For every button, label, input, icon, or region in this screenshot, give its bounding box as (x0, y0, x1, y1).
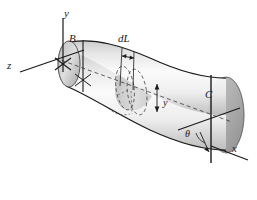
shaft-diagram (0, 0, 257, 200)
angle-theta-label: θ (185, 129, 190, 139)
y-axis-label: y (64, 8, 69, 19)
x-axis-label: x (232, 143, 237, 154)
point-B-label: B (69, 33, 76, 44)
shaft-body (58, 41, 244, 153)
z-axis-label: z (7, 60, 11, 71)
radius-label: y (163, 98, 167, 108)
element-length-label: dL (118, 33, 130, 44)
point-C-label: C (205, 89, 212, 100)
